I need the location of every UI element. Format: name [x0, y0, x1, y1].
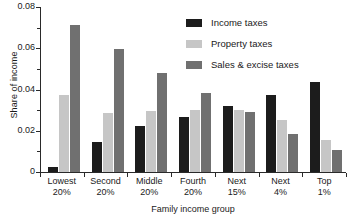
bar [234, 110, 244, 172]
y-tick-label: 0.04 [17, 85, 35, 94]
bar [277, 120, 287, 172]
legend-label: Sales & excise taxes [211, 59, 299, 70]
y-tick-major [36, 7, 41, 8]
x-axis-label: Family income group [40, 204, 346, 214]
bar [321, 140, 331, 172]
y-tick-minor [37, 151, 40, 152]
y-tick-label: 0.08 [17, 2, 35, 11]
bar [59, 95, 69, 172]
y-tick-major [36, 90, 41, 91]
legend: Income taxesProperty taxesSales & excise… [186, 12, 346, 75]
x-axis-line [40, 172, 346, 173]
legend-label: Property taxes [211, 38, 272, 49]
bar [288, 134, 298, 172]
legend-swatch [186, 61, 202, 69]
legend-item: Property taxes [186, 33, 346, 54]
bar [332, 150, 342, 172]
y-tick-minor [37, 69, 40, 70]
x-axis-tick-labels: Lowest20%Second20%Middle20%Fourth20%Next… [40, 176, 346, 204]
bar [114, 49, 124, 172]
bar [157, 73, 167, 172]
y-tick-minor [37, 110, 40, 111]
bar [310, 82, 320, 172]
bar [146, 111, 156, 172]
bar [190, 110, 200, 172]
bar-group [48, 7, 80, 172]
legend-swatch [186, 19, 202, 27]
y-tick-minor [37, 28, 40, 29]
bar [201, 93, 211, 172]
bar [266, 95, 276, 172]
y-tick-label: 0 [30, 167, 35, 176]
x-tick-label-line: Top [296, 176, 351, 187]
bar [135, 126, 145, 172]
y-tick-label: 0.06 [17, 43, 35, 52]
y-tick-label: 0.02 [17, 126, 35, 135]
bar [70, 25, 80, 172]
y-axis-tick-labels: 00.020.040.060.08 [0, 7, 35, 173]
bar-chart: Share of income 00.020.040.060.08 Lowest… [0, 0, 351, 222]
bar-group [92, 7, 124, 172]
bar [223, 106, 233, 172]
bar [92, 142, 102, 172]
bar [179, 117, 189, 172]
x-tick-label: Top1% [296, 176, 351, 197]
bar-group [135, 7, 167, 172]
y-tick-major [36, 48, 41, 49]
legend-item: Income taxes [186, 12, 346, 33]
bar [245, 112, 255, 172]
y-tick-major [36, 131, 41, 132]
legend-label: Income taxes [211, 17, 268, 28]
legend-item: Sales & excise taxes [186, 54, 346, 75]
x-tick-label-line: 1% [296, 187, 351, 198]
legend-swatch [186, 40, 202, 48]
bar [48, 167, 58, 172]
bar [103, 113, 113, 172]
